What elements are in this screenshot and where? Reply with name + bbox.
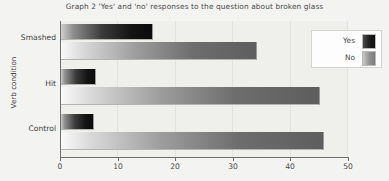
chart-legend: Yes No (311, 30, 382, 68)
legend-label-yes: Yes (343, 36, 355, 45)
x-axis-line (60, 157, 349, 158)
plot-area (60, 21, 348, 157)
x-tick-label-0: 0 (46, 162, 74, 171)
y-axis-title: Verb condition (9, 44, 18, 122)
bar-hit-no[interactable] (60, 87, 320, 105)
legend-item-yes[interactable]: Yes (316, 34, 377, 49)
y-axis-line (60, 21, 61, 158)
category-label-hit: Hit (45, 79, 56, 88)
legend-item-no[interactable]: No (316, 51, 377, 66)
x-tick-label-10: 10 (104, 162, 132, 171)
legend-label-no: No (345, 53, 355, 62)
chart-title: Graph 2 'Yes' and 'no' responses to the … (0, 2, 389, 11)
x-tick-label-30: 30 (219, 162, 247, 171)
category-label-control: Control (29, 124, 56, 133)
x-tick-mark-10 (118, 158, 119, 161)
x-tick-mark-40 (290, 158, 291, 161)
x-tick-mark-20 (175, 158, 176, 161)
chart-root: Graph 2 'Yes' and 'no' responses to the … (0, 0, 389, 181)
bar-control-no[interactable] (60, 132, 324, 150)
x-tick-mark-0 (60, 158, 61, 161)
x-tick-label-20: 20 (161, 162, 189, 171)
x-tick-mark-50 (348, 158, 349, 161)
bar-smashed-no[interactable] (60, 42, 257, 60)
bar-control-yes[interactable] (60, 114, 94, 130)
legend-swatch-yes-icon (362, 34, 376, 49)
legend-swatch-no-icon (362, 51, 376, 66)
category-label-smashed: Smashed (21, 33, 56, 42)
x-tick-label-50: 50 (334, 162, 362, 171)
bar-smashed-yes[interactable] (60, 24, 153, 40)
bar-hit-yes[interactable] (60, 69, 96, 85)
x-tick-label-40: 40 (276, 162, 304, 171)
x-tick-mark-30 (233, 158, 234, 161)
